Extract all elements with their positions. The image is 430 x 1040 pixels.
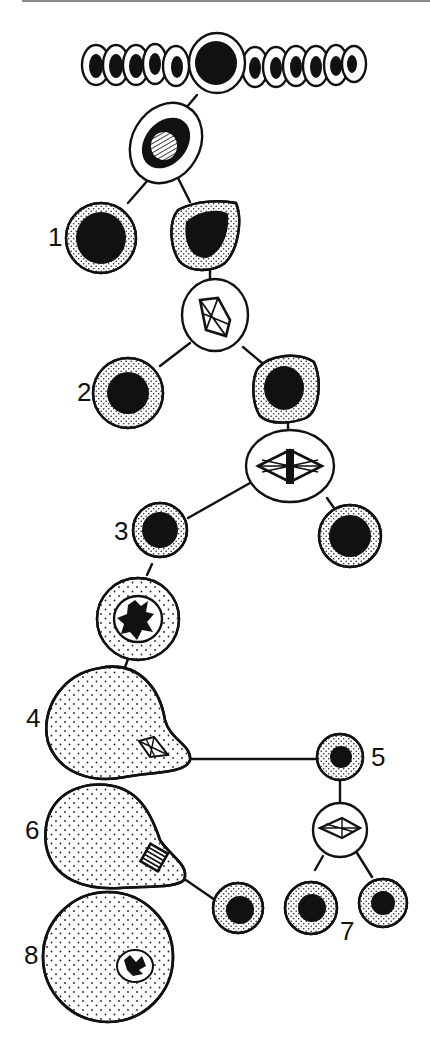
polar-body-dividing: [313, 803, 367, 857]
label-1: 1: [48, 224, 62, 250]
cell-2-sister: [253, 356, 318, 423]
connector: [178, 178, 190, 202]
connector: [243, 347, 262, 363]
ovum-8: [43, 892, 173, 1022]
dividing-cell-metaphase: [246, 430, 334, 502]
cell-3-sister: [319, 505, 381, 567]
polar-body-5: [317, 734, 363, 780]
connector: [147, 564, 152, 575]
polar-body-second: [213, 883, 263, 933]
connector: [128, 180, 148, 203]
oocyte-6: [45, 784, 185, 888]
cell-1-sister: [171, 201, 239, 270]
label-8: 8: [24, 942, 38, 968]
connector: [160, 343, 190, 366]
connector: [188, 483, 250, 518]
label-4: 4: [26, 705, 40, 731]
cell-1: [66, 203, 136, 273]
label-7: 7: [340, 918, 354, 944]
cell-prophase-chromatin: [97, 578, 179, 660]
connector: [327, 498, 334, 508]
connector: [315, 856, 323, 870]
cell-3: [133, 503, 187, 557]
connector: [183, 878, 215, 900]
connector: [357, 853, 372, 877]
cell-lineage-diagram: [0, 0, 430, 1040]
cell-2: [93, 358, 163, 428]
dividing-cell-spindle-1: [182, 279, 248, 351]
label-5: 5: [371, 744, 385, 770]
dividing-cell-prophase: [116, 90, 217, 197]
oocyte-4: [46, 667, 190, 779]
label-6: 6: [25, 817, 39, 843]
label-2: 2: [77, 379, 91, 405]
label-3: 3: [114, 518, 128, 544]
epithelium-row: [82, 33, 366, 93]
